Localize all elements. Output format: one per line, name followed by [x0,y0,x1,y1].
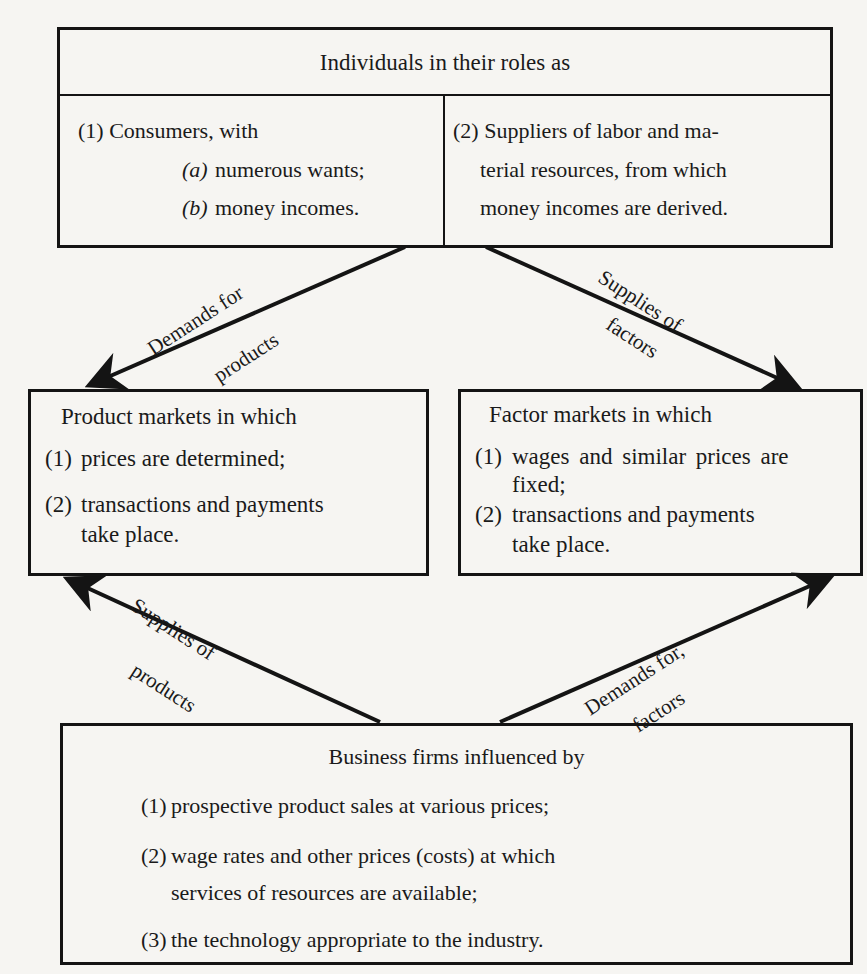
business-firms-box: Business firms influenced by (1) prospec… [60,723,853,965]
label-supplies-of-products-1: Supplies of [126,593,219,666]
factor-item-2-text-1: transactions and payments [512,502,755,528]
product-item-2-marker: (2) [45,492,72,518]
suppliers-line-2: terial resources, from which [480,157,727,183]
consumers-item-b-text: money incomes. [215,195,359,221]
factor-item-2-text-2: take place. [512,532,610,558]
product-item-1-marker: (1) [45,446,72,472]
suppliers-line-1: (2) Suppliers of labor and ma- [453,118,719,144]
suppliers-line-3: money incomes are derived. [480,195,728,221]
individuals-divider [443,94,445,245]
product-markets-title: Product markets in which [61,404,297,430]
product-markets-box: Product markets in which (1) prices are … [28,389,429,576]
individuals-box: Individuals in their roles as (1) Consum… [57,27,833,248]
consumers-item-a-text: numerous wants; [215,157,365,183]
factor-markets-box: Factor markets in which (1) wages and si… [458,389,863,576]
label-demands-for-products-2: products [209,328,283,388]
product-item-1-text: prices are determined; [81,446,285,472]
label-supplies-of-products-2: products [126,658,200,718]
business-item-2-marker: (2) [141,843,167,869]
individuals-header: Individuals in their roles as [60,30,830,96]
consumers-heading: (1) Consumers, with [78,118,258,144]
business-item-3-text: the technology appropriate to the indust… [171,927,543,953]
arrow-supplies-of-products [70,580,380,722]
business-item-2-text-2: services of resources are available; [171,880,478,906]
business-item-2-text-1: wage rates and other prices (costs) at w… [171,843,555,869]
business-item-1-marker: (1) [141,793,167,819]
individuals-title: Individuals in their roles as [60,50,830,76]
business-item-3-marker: (3) [141,927,167,953]
consumers-item-a-marker: (a) [182,157,208,183]
product-item-2-text-1: transactions and payments [81,492,324,518]
factor-item-1-text-1: wages and similar prices are [512,444,789,470]
factor-item-1-marker: (1) [475,444,502,470]
factor-markets-title: Factor markets in which [489,402,712,428]
product-item-2-text-2: take place. [81,522,179,548]
consumers-item-b-marker: (b) [182,195,208,221]
business-item-1-text: prospective product sales at various pri… [171,793,549,819]
business-firms-title: Business firms influenced by [63,744,850,770]
factor-item-2-marker: (2) [475,502,502,528]
label-demands-for-products-1: Demands for [143,281,248,361]
factor-item-1-text-2: fixed; [512,472,566,498]
